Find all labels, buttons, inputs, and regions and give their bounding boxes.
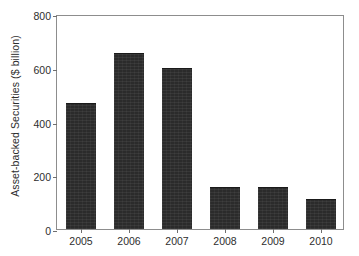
y-axis-tick-mark <box>53 70 57 71</box>
chart-figure: Asset-backed Securities ($ billion) 0200… <box>0 0 359 256</box>
x-axis-tick-label: 2005 <box>69 235 92 247</box>
plot-inner: 0200400600800200520062007200820092010 <box>57 16 343 229</box>
x-axis-tick-mark <box>273 229 274 233</box>
bar <box>66 103 96 229</box>
bar <box>258 187 288 229</box>
y-axis-tick-mark <box>53 124 57 125</box>
y-axis-tick-mark <box>53 177 57 178</box>
x-axis-tick-mark <box>129 229 130 233</box>
x-axis-tick-label: 2010 <box>309 235 332 247</box>
plot-area: 0200400600800200520062007200820092010 <box>56 15 344 230</box>
y-axis-tick-label: 800 <box>33 10 51 22</box>
y-axis-label: Asset-backed Securities ($ billion) <box>9 35 21 197</box>
bar <box>114 53 144 229</box>
x-axis-tick-label: 2007 <box>165 235 188 247</box>
x-axis-tick-mark <box>321 229 322 233</box>
x-axis-tick-mark <box>177 229 178 233</box>
x-axis-tick-mark <box>81 229 82 233</box>
x-axis-tick-label: 2008 <box>213 235 236 247</box>
bar <box>162 68 192 229</box>
y-axis-tick-mark <box>53 231 57 232</box>
bar <box>210 187 240 229</box>
y-axis-tick-label: 200 <box>33 171 51 183</box>
x-axis-tick-label: 2006 <box>117 235 140 247</box>
x-axis-tick-label: 2009 <box>261 235 284 247</box>
bar <box>306 199 336 229</box>
y-axis-tick-mark <box>53 16 57 17</box>
y-axis-label-container: Asset-backed Securities ($ billion) <box>0 0 30 232</box>
y-axis-tick-label: 0 <box>45 225 51 237</box>
y-axis-tick-label: 400 <box>33 118 51 130</box>
y-axis-tick-label: 600 <box>33 64 51 76</box>
x-axis-tick-mark <box>225 229 226 233</box>
